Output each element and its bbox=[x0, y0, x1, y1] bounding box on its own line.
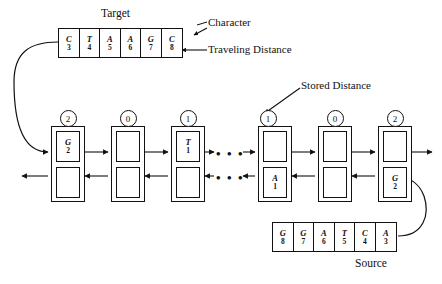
source-cell-num: 3 bbox=[384, 238, 388, 246]
target-cell-num: 3 bbox=[67, 44, 71, 52]
target-sequence-array: C 3 T 4 A 5 A 6 G 7 C 8 bbox=[58, 28, 183, 58]
target-cell: A 5 bbox=[100, 29, 121, 57]
target-cell: C 3 bbox=[59, 29, 80, 57]
node-cell-num: 2 bbox=[393, 183, 397, 191]
target-title: Target bbox=[101, 8, 130, 20]
source-title: Source bbox=[355, 258, 387, 270]
source-cell: A 3 bbox=[376, 223, 397, 251]
processor-node: G 2 bbox=[378, 126, 412, 202]
stored-distance-circle: 0 bbox=[120, 110, 137, 127]
stored-distance-circle: 1 bbox=[180, 110, 197, 127]
stored-distance-circle: 1 bbox=[260, 110, 277, 127]
ellipsis-top: • • • bbox=[216, 147, 244, 160]
source-cell-num: 8 bbox=[281, 238, 285, 246]
target-cell-num: 8 bbox=[170, 44, 174, 52]
stored-distance-circle: 2 bbox=[387, 110, 404, 127]
node-top-cell: T 1 bbox=[176, 131, 200, 162]
target-cell: A 6 bbox=[121, 29, 142, 57]
node-top-cell bbox=[116, 131, 140, 162]
node-bottom-cell bbox=[176, 167, 200, 198]
target-cell: C 8 bbox=[162, 29, 183, 57]
source-cell: A 6 bbox=[314, 223, 335, 251]
node-bottom-cell bbox=[56, 167, 80, 198]
target-cell-num: 5 bbox=[108, 44, 112, 52]
node-cell-num: 2 bbox=[66, 147, 70, 155]
node-bottom-cell bbox=[116, 167, 140, 198]
source-cell: G 7 bbox=[294, 223, 315, 251]
node-cell-num: 1 bbox=[273, 183, 277, 191]
source-cell-num: 6 bbox=[322, 238, 326, 246]
node-bottom-cell: G 2 bbox=[383, 167, 407, 198]
source-cell-num: 5 bbox=[342, 238, 346, 246]
traveling-distance-annotation-label: Traveling Distance bbox=[208, 44, 292, 55]
character-annotation-label: Character bbox=[208, 17, 251, 28]
stored-distance-circle: 0 bbox=[327, 110, 344, 127]
character-leader-line bbox=[194, 22, 207, 35]
source-cell: T 5 bbox=[335, 223, 356, 251]
processor-node bbox=[318, 126, 352, 202]
node-top-cell: G 2 bbox=[56, 131, 80, 162]
source-cell: C 4 bbox=[355, 223, 376, 251]
processor-node: T 1 bbox=[171, 126, 205, 202]
processor-node: A 1 bbox=[258, 126, 292, 202]
source-cell-num: 7 bbox=[301, 238, 305, 246]
node-bottom-cell bbox=[323, 167, 347, 198]
ellipsis-bottom: • • • bbox=[216, 171, 244, 184]
node-top-cell bbox=[263, 131, 287, 162]
node-cell-num: 1 bbox=[186, 147, 190, 155]
figure-canvas: Target Source Character Traveling Distan… bbox=[0, 0, 442, 284]
target-cell-num: 7 bbox=[149, 44, 153, 52]
stored-distance-annotation-label: Stored Distance bbox=[301, 80, 371, 91]
source-sequence-array: G 8 G 7 A 6 T 5 C 4 A 3 bbox=[272, 222, 397, 252]
source-cell: G 8 bbox=[273, 223, 294, 251]
stored-distance-circle: 2 bbox=[60, 110, 77, 127]
processor-node bbox=[111, 126, 145, 202]
target-cell-num: 6 bbox=[128, 44, 132, 52]
node-bottom-cell: A 1 bbox=[263, 167, 287, 198]
source-cell-num: 4 bbox=[363, 238, 367, 246]
processor-node: G 2 bbox=[51, 126, 85, 202]
node-top-cell bbox=[383, 131, 407, 162]
node-top-cell bbox=[323, 131, 347, 162]
target-cell-num: 4 bbox=[87, 44, 91, 52]
target-cell: T 4 bbox=[80, 29, 101, 57]
target-cell: G 7 bbox=[141, 29, 162, 57]
